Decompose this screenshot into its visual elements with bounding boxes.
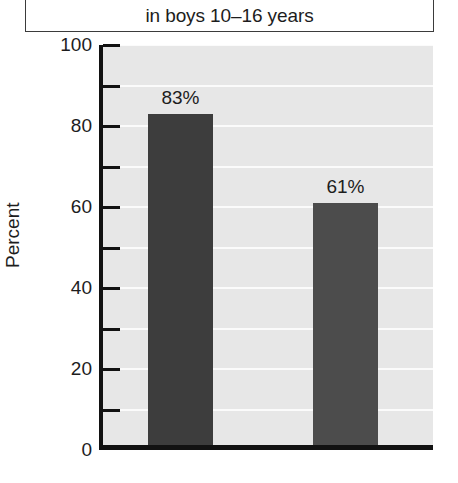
chart-title: in boys 10–16 years	[26, 5, 433, 27]
bar	[313, 203, 378, 450]
y-axis-tick	[103, 328, 120, 331]
x-axis-spine	[99, 445, 433, 450]
y-axis-tick-label: 80	[0, 115, 92, 137]
y-axis-tick-label: 60	[0, 196, 92, 218]
y-axis-tick	[103, 166, 120, 169]
bar-value-label: 61%	[326, 176, 364, 198]
y-axis-tick	[103, 368, 120, 371]
y-axis-tick	[103, 125, 120, 128]
y-axis-tick-label: 100	[0, 34, 92, 56]
plot-frame: 83%61%	[99, 45, 433, 455]
y-axis-tick-labels: 100806040200	[0, 45, 92, 450]
bar	[148, 114, 213, 450]
y-axis-tick-label: 40	[0, 277, 92, 299]
gridline	[103, 85, 433, 87]
y-axis-tick	[103, 85, 120, 88]
y-axis-tick	[103, 206, 120, 209]
y-axis-tick-label: 20	[0, 358, 92, 380]
plot-area: 83%61%	[103, 45, 433, 450]
chart-title-box: in boys 10–16 years	[25, 0, 434, 32]
y-axis-tick	[103, 287, 120, 290]
y-axis-tick-label: 0	[0, 439, 92, 461]
y-axis-tick	[103, 247, 120, 250]
gridline	[103, 45, 433, 46]
bar-value-label: 83%	[161, 87, 199, 109]
y-axis-tick	[103, 44, 120, 47]
y-axis-tick	[103, 409, 120, 412]
chart-figure: in boys 10–16 years Percent 100806040200…	[0, 0, 458, 483]
